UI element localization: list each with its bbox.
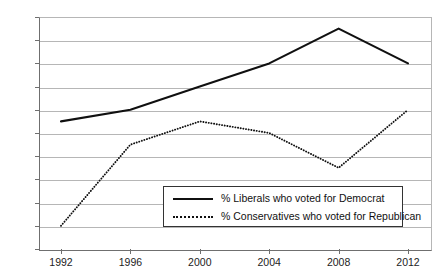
x-axis-label: 2000 bbox=[188, 256, 211, 268]
x-axis-label: 2012 bbox=[396, 256, 419, 268]
x-axis-label: 1996 bbox=[119, 256, 142, 268]
gridline bbox=[40, 157, 431, 158]
x-axis-label: 2004 bbox=[258, 256, 281, 268]
legend-entry-liberals: % Liberals who voted for Democrat bbox=[164, 189, 402, 207]
line-chart: 90%88%86%84%82%80%78%76%74%72%70% 199219… bbox=[0, 0, 441, 276]
legend-swatch-dotted-line-icon bbox=[173, 211, 213, 221]
gridline bbox=[40, 41, 431, 42]
legend-label-liberals: % Liberals who voted for Democrat bbox=[221, 192, 384, 204]
gridline bbox=[40, 88, 431, 89]
gridline bbox=[40, 134, 431, 135]
legend-swatch-solid-line-icon bbox=[173, 193, 213, 203]
x-axis-label: 1992 bbox=[49, 256, 72, 268]
chart-legend: % Liberals who voted for Democrat % Cons… bbox=[163, 186, 403, 227]
x-axis-label: 2008 bbox=[327, 256, 350, 268]
gridline bbox=[40, 180, 431, 181]
legend-entry-conservatives: % Conservatives who voted for Republican bbox=[164, 207, 402, 225]
gridline bbox=[40, 111, 431, 112]
gridline bbox=[40, 64, 431, 65]
legend-label-conservatives: % Conservatives who voted for Republican bbox=[221, 210, 421, 222]
